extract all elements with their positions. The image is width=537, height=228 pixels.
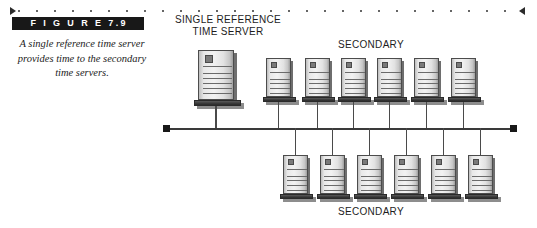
server-led-icon xyxy=(205,55,213,63)
server-slot-line xyxy=(418,83,438,84)
server-chassis xyxy=(394,155,419,194)
server-led-icon xyxy=(346,62,352,68)
server-slot-line xyxy=(270,72,290,73)
server-drop-line xyxy=(295,128,297,155)
server-chassis xyxy=(468,155,493,194)
server-slot-line xyxy=(381,93,401,94)
server-chassis xyxy=(451,58,476,97)
server-base xyxy=(194,100,241,106)
server-chassis xyxy=(283,155,308,194)
secondary-top-label: SECONDARY xyxy=(316,39,426,51)
server-slot-line xyxy=(324,185,344,186)
server-slot-line xyxy=(287,169,307,170)
server-slot-line xyxy=(472,176,492,177)
server-led-icon xyxy=(382,62,388,68)
server-drop-line xyxy=(406,128,408,155)
server-drop-line xyxy=(215,106,217,128)
server-drop-line xyxy=(278,102,280,128)
server-slot-line xyxy=(361,190,381,191)
server-slot-line xyxy=(455,93,475,94)
server-chassis xyxy=(414,58,439,97)
server-chassis xyxy=(357,155,382,194)
server-slot-line xyxy=(472,185,492,186)
server-slot-line xyxy=(435,169,455,170)
server-led-icon xyxy=(288,159,294,165)
server-led-icon xyxy=(362,159,368,165)
server-drop-line xyxy=(443,128,445,155)
server-slot-line xyxy=(361,176,381,177)
server-slot-line xyxy=(324,180,344,181)
server-base xyxy=(302,97,335,102)
server-base xyxy=(263,97,296,102)
server-base xyxy=(354,194,387,199)
server-chassis xyxy=(431,155,456,194)
server-slot-line xyxy=(435,185,455,186)
server-slot-line xyxy=(381,83,401,84)
server-slot-line xyxy=(472,180,492,181)
server-slot-line xyxy=(287,180,307,181)
network-diagram: SINGLE REFERENCE TIME SERVER SECONDARY S… xyxy=(0,0,537,228)
server-slot-line xyxy=(345,83,365,84)
server-base xyxy=(338,97,371,102)
server-slot-line xyxy=(203,73,232,74)
server-slot-line xyxy=(324,169,344,170)
secondary-bottom-label: SECONDARY xyxy=(316,206,426,218)
server-slot-line xyxy=(455,72,475,73)
server-drop-line xyxy=(353,102,355,128)
server-slot-line xyxy=(398,190,418,191)
server-slot-line xyxy=(398,180,418,181)
server-base xyxy=(391,194,424,199)
server-slot-line xyxy=(309,79,329,80)
server-drop-line xyxy=(332,128,334,155)
server-slot-line xyxy=(381,79,401,80)
server-slot-line xyxy=(203,93,232,94)
server-base xyxy=(317,194,350,199)
server-chassis xyxy=(341,58,366,97)
network-bus-line xyxy=(165,128,515,130)
server-chassis xyxy=(377,58,402,97)
server-slot-line xyxy=(435,190,455,191)
server-led-icon xyxy=(325,159,331,165)
server-slot-line xyxy=(418,88,438,89)
server-slot-line xyxy=(472,190,492,191)
server-slot-line xyxy=(361,180,381,181)
server-slot-line xyxy=(361,169,381,170)
server-slot-line xyxy=(203,83,232,84)
primary-server-label-line2: TIME SERVER xyxy=(164,26,292,38)
server-slot-line xyxy=(435,176,455,177)
server-slot-line xyxy=(309,83,329,84)
server-slot-line xyxy=(309,72,329,73)
server-led-icon xyxy=(310,62,316,68)
server-slot-line xyxy=(455,83,475,84)
server-slot-line xyxy=(203,66,232,67)
server-slot-line xyxy=(398,176,418,177)
server-slot-line xyxy=(345,93,365,94)
server-slot-line xyxy=(270,79,290,80)
server-drop-line xyxy=(480,128,482,155)
server-slot-line xyxy=(203,88,232,89)
server-led-icon xyxy=(419,62,425,68)
server-led-icon xyxy=(399,159,405,165)
server-slot-line xyxy=(381,88,401,89)
server-chassis xyxy=(198,50,234,100)
server-led-icon xyxy=(473,159,479,165)
bus-terminator-left-icon xyxy=(163,125,170,132)
server-slot-line xyxy=(455,88,475,89)
server-drop-line xyxy=(426,102,428,128)
primary-server-label: SINGLE REFERENCE TIME SERVER xyxy=(164,14,292,38)
server-slot-line xyxy=(345,72,365,73)
server-slot-line xyxy=(361,185,381,186)
server-base xyxy=(428,194,461,199)
server-base xyxy=(374,97,407,102)
server-slot-line xyxy=(287,176,307,177)
server-base xyxy=(465,194,498,199)
server-base xyxy=(448,97,481,102)
server-slot-line xyxy=(270,88,290,89)
server-slot-line xyxy=(287,190,307,191)
server-drop-line xyxy=(317,102,319,128)
server-drop-line xyxy=(369,128,371,155)
server-chassis xyxy=(320,155,345,194)
bus-terminator-right-icon xyxy=(510,125,517,132)
server-slot-line xyxy=(418,72,438,73)
server-slot-line xyxy=(381,72,401,73)
